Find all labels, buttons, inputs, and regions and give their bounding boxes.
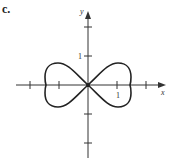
y-tick-label-1: 1 [78,52,82,61]
origin-point [86,83,90,87]
x-tick-label-1: 1 [116,91,120,100]
x-axis-label: x [160,88,165,97]
y-axis-arrow-icon [85,11,91,19]
y-axis-label: y [79,7,84,16]
plot: 1 1 x y [0,0,175,167]
